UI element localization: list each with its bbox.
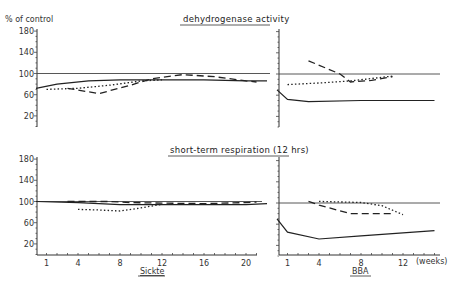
x-tick-label: 4 — [316, 259, 321, 268]
y-tick-label: 180 — [19, 27, 34, 36]
y-tick-label: 140 — [19, 48, 34, 57]
y-tick-label: 180 — [19, 155, 34, 164]
x-tick-label: 1 — [285, 259, 290, 268]
series-dashed — [68, 75, 257, 94]
series-solid — [277, 90, 435, 102]
y-tick-label: 60 — [24, 219, 34, 228]
x-tick-label: 8 — [117, 259, 122, 268]
series-solid — [277, 219, 435, 239]
y-tick-label: 60 — [24, 91, 34, 100]
x-tick-label: 12 — [398, 259, 408, 268]
x-tick-label: 8 — [358, 259, 363, 268]
x-tick-label: 1 — [44, 259, 49, 268]
x-unit-weeks: (weeks) — [416, 257, 447, 266]
title-respiration: short-term respiration (12 hrs) — [170, 145, 309, 155]
x-tick-label: 16 — [199, 259, 209, 268]
y-tick-label: 20 — [24, 240, 34, 249]
x-tick-label: 4 — [75, 259, 80, 268]
y-tick-label: 20 — [24, 112, 34, 121]
series-dotted — [288, 76, 393, 85]
y-tick-label: 100 — [19, 198, 34, 207]
y-tick-label: 140 — [19, 176, 34, 185]
x-label-bba: BBA — [352, 267, 369, 276]
title-dehydrogenase: dehydrogenase activity — [183, 14, 289, 24]
figure: % of control dehydrogenase activity shor… — [0, 0, 464, 292]
x-tick-label: 12 — [157, 259, 167, 268]
x-label-sickte: Sickte — [140, 267, 164, 276]
series-dashed — [309, 61, 393, 82]
y-axis-label: % of control — [5, 15, 53, 24]
y-tick-label: 100 — [19, 70, 34, 79]
series-solid — [36, 80, 267, 88]
x-tick-label: 20 — [241, 259, 251, 268]
